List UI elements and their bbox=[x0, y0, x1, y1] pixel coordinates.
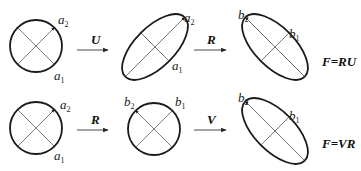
equation-f-ru: F=RU bbox=[321, 54, 357, 69]
row-1: a2 a1 U a2 a1 R b2 b1 F=RU bbox=[10, 3, 357, 91]
polar-decomposition-diagram: a2 a1 U a2 a1 R b2 b1 F=RU bbox=[0, 0, 361, 171]
label-b1: b1 bbox=[289, 26, 300, 43]
unit-circle-a bbox=[10, 20, 62, 72]
operator-arrow-u: U bbox=[77, 32, 108, 50]
row-2: a2 a1 R b2 b1 V b2 b1 F=VR bbox=[10, 87, 356, 171]
label-a2: a2 bbox=[58, 12, 69, 29]
operator-label-v: V bbox=[207, 112, 217, 127]
equation-f-vr: F=VR bbox=[321, 136, 356, 151]
rotated-circle-b bbox=[128, 103, 180, 155]
operator-label-r: R bbox=[206, 32, 216, 47]
operator-label-r: R bbox=[90, 112, 100, 127]
label-a2: a2 bbox=[60, 97, 71, 114]
unit-circle-a bbox=[10, 102, 62, 154]
label-a1: a1 bbox=[54, 68, 65, 85]
operator-arrow-r: R bbox=[194, 32, 226, 50]
label-a1: a1 bbox=[172, 58, 183, 75]
operator-label-u: U bbox=[91, 32, 101, 47]
label-b1: b1 bbox=[289, 108, 300, 125]
label-a1: a1 bbox=[54, 148, 65, 165]
label-b2: b2 bbox=[124, 94, 135, 111]
label-b2: b2 bbox=[238, 90, 249, 107]
operator-arrow-v: V bbox=[194, 112, 226, 130]
label-b2: b2 bbox=[238, 7, 249, 24]
operator-arrow-r: R bbox=[77, 112, 108, 130]
label-b1: b1 bbox=[175, 94, 186, 111]
label-a2: a2 bbox=[184, 10, 195, 27]
